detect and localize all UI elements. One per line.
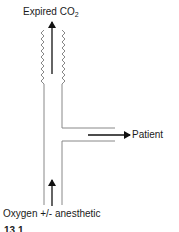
corrugated-right-wall bbox=[62, 30, 65, 84]
patient-label: Patient bbox=[132, 130, 163, 140]
expired-co2-label: Expired CO2 bbox=[23, 7, 79, 18]
figure-caption: 13.1 ... bbox=[4, 226, 35, 232]
fresh-gas-label: Oxygen +/- anesthetic bbox=[3, 209, 101, 219]
t-piece-diagram bbox=[0, 0, 179, 232]
corrugated-left-wall bbox=[41, 30, 44, 84]
